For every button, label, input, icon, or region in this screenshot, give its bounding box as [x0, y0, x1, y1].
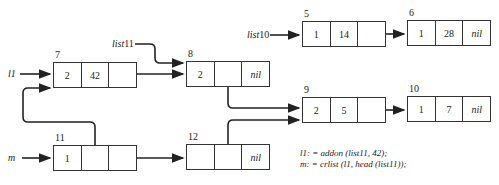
node-cell [358, 98, 385, 122]
node-9: 2 5 [302, 97, 386, 123]
node-8: 2 nil [186, 61, 270, 87]
node-6-address: 6 [409, 7, 414, 18]
node-cell: nil [242, 145, 269, 169]
node-cell: 14 [331, 22, 359, 46]
var-m-label: m [8, 152, 15, 163]
node-10-address: 10 [409, 83, 419, 94]
node-cell [109, 146, 136, 170]
node-cell: nil [242, 62, 269, 86]
node-5-address: 5 [304, 8, 309, 19]
node-cell: 28 [436, 21, 464, 45]
node-cell: 1 [408, 97, 436, 121]
node-12: nil [186, 144, 270, 170]
node-cell: 2 [303, 98, 331, 122]
node-cell [82, 146, 110, 170]
node-cell: 2 [54, 63, 82, 87]
node-8-address: 8 [188, 48, 193, 59]
node-cell: 1 [54, 146, 82, 170]
node-cell: 1 [303, 22, 331, 46]
node-5: 1 14 [302, 21, 386, 47]
node-cell: 2 [187, 62, 215, 86]
node-cell: nil [463, 21, 490, 45]
node-cell [109, 63, 136, 87]
node-7-address: 7 [55, 49, 60, 60]
node-cell [215, 62, 243, 86]
var-list11-label: list11 [112, 38, 134, 49]
node-cell: 7 [436, 97, 464, 121]
code-listing: l1: = addon (list11, 42); m: = crlist (l… [300, 148, 406, 170]
var-l1-label: l1 [8, 68, 16, 79]
node-12-address: 12 [188, 131, 198, 142]
node-cell: 42 [82, 63, 110, 87]
node-cell: nil [463, 97, 490, 121]
node-7: 2 42 [53, 62, 137, 88]
node-cell: 5 [331, 98, 359, 122]
node-9-address: 9 [304, 84, 309, 95]
node-6: 1 28 nil [407, 20, 491, 46]
node-11-address: 11 [55, 132, 65, 143]
node-cell [358, 22, 385, 46]
node-cell: 1 [408, 21, 436, 45]
node-10: 1 7 nil [407, 96, 491, 122]
code-line-1: l1: = addon (list11, 42); [300, 148, 406, 159]
node-cell [215, 145, 243, 169]
node-cell [187, 145, 215, 169]
code-line-2: m: = crlist (l1, head (list11)); [300, 159, 406, 170]
node-11: 1 [53, 145, 137, 171]
var-list10-label: list10 [247, 29, 269, 40]
